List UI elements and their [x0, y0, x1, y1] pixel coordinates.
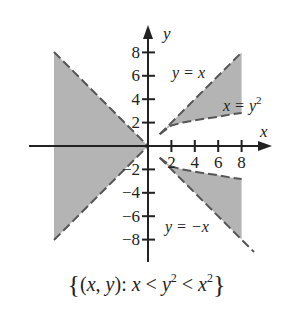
caption-text: < [141, 273, 162, 295]
caption-var: x [87, 273, 96, 295]
y-tick-label: 2 [132, 113, 141, 132]
x-tick-label: 4 [191, 153, 200, 172]
caption-var: y [162, 273, 171, 295]
y-tick-label: −4 [122, 183, 141, 202]
caption-text: ( [80, 273, 87, 295]
y-tick-label: 6 [132, 66, 141, 85]
x-tick-label: 2 [167, 153, 176, 172]
label-x-eq-y-squared: x = y2 [222, 94, 262, 115]
x-axis-label: x [259, 122, 268, 141]
y-axis-label: y [161, 24, 171, 43]
open-brace: { [68, 270, 80, 299]
caption-var: x [198, 273, 207, 295]
x-tick-label: 6 [214, 153, 223, 172]
y-tick-label: −8 [122, 230, 140, 249]
caption-text: , [96, 273, 106, 295]
label-y-eq-x: y = x [170, 64, 205, 82]
close-brace: } [213, 270, 225, 299]
x-axis-arrow-icon [258, 141, 272, 151]
label-y-eq-neg-x: y = −x [163, 218, 209, 236]
y-tick-label: −2 [122, 160, 140, 179]
y-tick-label: −6 [122, 207, 140, 226]
y-tick-label: 4 [132, 90, 141, 109]
y-axis-arrow-icon [143, 25, 153, 39]
caption-var: x [132, 273, 141, 295]
caption-var: y [106, 273, 115, 295]
set-caption: {(x, y): x < y2 < x2} [0, 270, 293, 300]
caption-text: < [177, 273, 198, 295]
caption-text: ): [115, 273, 127, 295]
x-tick-label: 8 [237, 153, 246, 172]
y-tick-label: 8 [132, 43, 141, 62]
